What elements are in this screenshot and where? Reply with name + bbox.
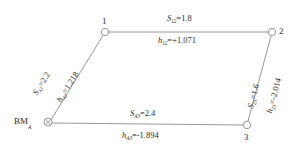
- node-label-1: 1: [102, 17, 107, 26]
- node-marker-3: [243, 121, 250, 128]
- node-marker-bm: [44, 118, 52, 126]
- node-marker-2: [268, 28, 275, 35]
- node-label-3: 3: [244, 133, 249, 142]
- edge-bm-3: [52, 123, 243, 125]
- edge-label-s-a3: SA3=2.4: [130, 109, 155, 118]
- leveling-network-diagram: 1 2 3 BMA SA1=2.2 hA1=1.218 S12=1.8 h12=…: [0, 0, 298, 156]
- node-label-2: 2: [279, 27, 284, 36]
- edge-label-h-12: h12=+1.071: [158, 36, 196, 45]
- edge-label-h-a3: hA3=-1.894: [122, 131, 159, 140]
- benchmark-label: BMA: [14, 117, 31, 128]
- benchmark-subscript: A: [28, 124, 31, 130]
- edge-label-s-12: S12=1.8: [167, 14, 192, 23]
- node-marker-1: [101, 28, 108, 35]
